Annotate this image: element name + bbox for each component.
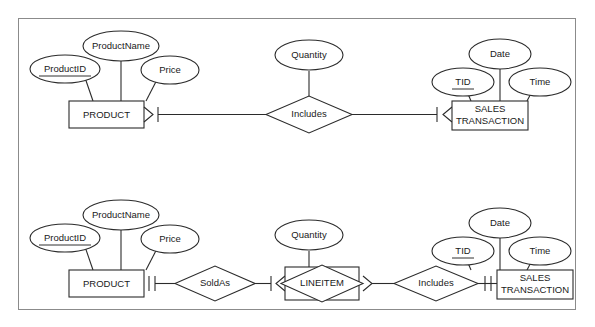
cardinality-lineitem-right-one-or-many — [363, 276, 372, 291]
entity-product-top-label: PRODUCT — [83, 109, 130, 120]
attribute-price-bottom-label: Price — [159, 233, 181, 244]
attribute-time-top-label: Time — [530, 76, 551, 87]
top-diagram: PRODUCT Quantity Includes — [30, 31, 571, 133]
entity-sales-transaction-top-label-line2: TRANSACTION — [456, 115, 524, 126]
entity-sales-transaction-bottom-label-line2: TRANSACTION — [501, 284, 569, 295]
attribute-productname-top-label: ProductName — [92, 40, 150, 51]
entity-lineitem-bottom-label: LINEITEM — [300, 277, 344, 288]
attribute-quantity-top-label: Quantity — [291, 49, 327, 60]
entity-sales-transaction-top-label-line1: SALES — [475, 103, 506, 114]
attribute-time-bottom-label: Time — [530, 245, 551, 256]
attribute-productid-bottom-label: ProductID — [44, 232, 86, 243]
attribute-productname-bottom-label: ProductName — [92, 209, 150, 220]
bottom-diagram: PRODUCT SoldAs LINEITEM — [30, 200, 573, 302]
cardinality-sales-top-one-or-many — [437, 107, 452, 122]
diagram-frame: PRODUCT Quantity Includes — [18, 18, 576, 310]
attribute-tid-top-label: TID — [455, 76, 470, 87]
relationship-soldas-bottom-label: SoldAs — [200, 277, 230, 288]
attribute-price-top-label: Price — [159, 64, 181, 75]
attribute-date-bottom-label: Date — [490, 217, 510, 228]
entity-product-bottom-label: PRODUCT — [83, 278, 130, 289]
cardinality-product-top-one-or-many — [144, 107, 158, 122]
attribute-quantity-bottom-label: Quantity — [291, 229, 327, 240]
attribute-productid-top-label: ProductID — [44, 63, 86, 74]
attribute-tid-bottom-label: TID — [455, 245, 470, 256]
cardinality-product-bottom-exactly-one — [149, 276, 155, 291]
entity-sales-transaction-bottom-label-line1: SALES — [520, 272, 551, 283]
attribute-date-top-label: Date — [490, 48, 510, 59]
relationship-includes-bottom-label: Includes — [418, 277, 454, 288]
relationship-includes-top-label: Includes — [291, 108, 327, 119]
er-diagram-canvas: PRODUCT Quantity Includes — [19, 19, 575, 309]
